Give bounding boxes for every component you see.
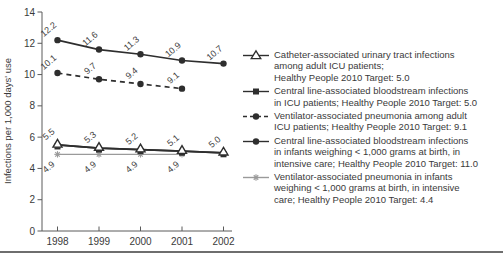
legend-line: Ventilator-associated pneumonia among ad… xyxy=(274,110,467,121)
legend-entry-2: Ventilator-associated pneumonia among ad… xyxy=(243,110,501,133)
data-label: 5.2 xyxy=(124,131,140,147)
data-label: 5.1 xyxy=(165,133,181,149)
legend-entry-text: Ventilator-associated pneumonia in infan… xyxy=(274,171,460,205)
filled-square-legend-icon xyxy=(243,85,269,97)
y-tick-label: 14 xyxy=(24,7,36,18)
data-label: 4.9 xyxy=(82,159,98,175)
legend-line: in infants weighing < 1,000 grams at bir… xyxy=(274,146,478,157)
y-tick-label: 8 xyxy=(29,100,35,111)
legend-line: Healthy People 2010 Target: 5.0 xyxy=(274,72,455,83)
legend-line: Central line-associated bloodstream infe… xyxy=(274,135,478,146)
y-axis-label: Infections per 1,000 days' use xyxy=(2,58,13,184)
x-tick-label: 1999 xyxy=(88,236,111,247)
legend-entry-text: Catheter-associated urinary tract infect… xyxy=(274,49,455,83)
circle-marker xyxy=(137,51,143,57)
legend-line: care; Healthy People 2010 Target: 4.4 xyxy=(274,194,460,205)
data-label: 10.9 xyxy=(163,40,183,59)
legend-line: among adult ICU patients; xyxy=(274,60,455,71)
data-label: 9.7 xyxy=(82,61,98,77)
x-tick-label: 2001 xyxy=(171,236,194,247)
data-label: 4.9 xyxy=(41,159,57,175)
legend-entry-0: Catheter-associated urinary tract infect… xyxy=(243,49,501,83)
legend-line: in ICU patients; Healthy People 2010 Tar… xyxy=(274,97,477,108)
data-label: 4.9 xyxy=(124,159,140,175)
legend-entry-1: Central line-associated bloodstream infe… xyxy=(243,85,501,108)
figure-panel: Infections per 1,000 days' use 024681012… xyxy=(0,0,503,259)
circle-marker xyxy=(96,46,102,52)
circle-marker xyxy=(54,37,60,43)
legend-entry-text: Central line-associated bloodstream infe… xyxy=(274,135,478,169)
plot-area: 02468101214199819992000200120024.94.94.9… xyxy=(24,7,235,248)
circle-marker xyxy=(179,85,185,91)
triangle-marker xyxy=(136,144,145,152)
data-label: 4.9 xyxy=(165,159,181,175)
x-tick-label: 1998 xyxy=(46,236,69,247)
legend-entry-3: Central line-associated bloodstream infe… xyxy=(243,135,501,169)
data-label: 5.0 xyxy=(207,134,223,150)
triangle-marker xyxy=(219,147,228,155)
filled-circle-legend-icon xyxy=(243,135,269,147)
y-tick-label: 12 xyxy=(24,38,36,49)
y-tick-label: 10 xyxy=(24,69,36,80)
legend-line: Central line-associated bloodstream infe… xyxy=(274,85,477,96)
y-tick-label: 0 xyxy=(29,226,35,237)
open-triangle-legend-icon xyxy=(243,49,269,61)
circle-marker xyxy=(220,60,226,66)
data-label: 5.3 xyxy=(82,129,98,145)
data-label: 9.4 xyxy=(124,65,140,81)
legend-line: ICU patients; Healthy People 2010 Target… xyxy=(274,121,467,132)
circle-marker xyxy=(54,70,60,76)
legend-entry-4: Ventilator-associated pneumonia in infan… xyxy=(243,171,501,205)
data-label: 9.1 xyxy=(165,70,181,86)
x-tick-label: 2002 xyxy=(212,236,235,247)
x-tick-label: 2000 xyxy=(129,236,152,247)
y-tick-label: 4 xyxy=(29,163,35,174)
triangle-marker xyxy=(53,139,62,147)
series-line-vap-adult-icu xyxy=(58,73,183,89)
horizontal-divider xyxy=(0,251,503,253)
legend-line: intensive care; Healthy People 2010 Targ… xyxy=(274,158,478,169)
data-label: 11.3 xyxy=(122,34,141,52)
dashed-circle-legend-icon xyxy=(243,110,269,122)
data-label: 10.7 xyxy=(205,43,225,62)
legend-line: Ventilator-associated pneumonia in infan… xyxy=(274,171,460,182)
legend-line: weighing < 1,000 grams at birth, in inte… xyxy=(274,182,460,193)
gray-star-legend-icon xyxy=(243,171,269,183)
legend-line: Catheter-associated urinary tract infect… xyxy=(274,49,455,60)
data-label: 5.5 xyxy=(41,126,57,142)
circle-marker xyxy=(137,81,143,87)
data-label: 11.6 xyxy=(80,29,99,47)
legend-entry-text: Ventilator-associated pneumonia among ad… xyxy=(274,110,467,133)
circle-marker xyxy=(96,76,102,82)
triangle-marker xyxy=(95,143,104,151)
legend-entry-text: Central line-associated bloodstream infe… xyxy=(274,85,477,108)
y-tick-label: 6 xyxy=(29,132,35,143)
chart-legend: Catheter-associated urinary tract infect… xyxy=(243,49,501,207)
triangle-marker xyxy=(178,146,187,154)
y-tick-label: 2 xyxy=(29,194,35,205)
circle-marker xyxy=(179,57,185,63)
